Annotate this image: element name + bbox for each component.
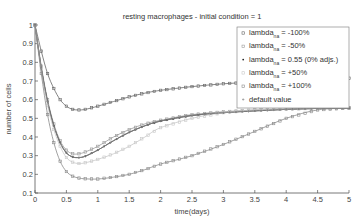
y-axis-label: number of cells bbox=[4, 83, 13, 134]
legend: lambdana = -100%lambdana = -50%lambdana … bbox=[237, 27, 349, 108]
legend-label: default value bbox=[249, 95, 292, 104]
x-tick-label: 4.5 bbox=[312, 195, 322, 204]
y-tick-label: 0.7 bbox=[23, 77, 33, 86]
chart: resting macrophages - initial condition … bbox=[0, 0, 362, 221]
y-tick-label: 0.1 bbox=[23, 189, 33, 198]
x-tick-label: 1 bbox=[96, 195, 100, 204]
y-tick-label: 0.6 bbox=[23, 95, 33, 104]
x-tick-label: 5 bbox=[347, 195, 351, 204]
x-tick-label: 1.5 bbox=[124, 195, 134, 204]
y-tick-label: 0.2 bbox=[23, 170, 33, 179]
x-tick-label: 3.5 bbox=[250, 195, 260, 204]
y-tick-label: 0.5 bbox=[23, 114, 33, 123]
x-tick-label: 0.5 bbox=[61, 195, 71, 204]
marker-star bbox=[34, 24, 36, 26]
y-tick-label: 0.8 bbox=[23, 58, 33, 67]
y-tick-label: 0.9 bbox=[23, 39, 33, 48]
x-tick-label: 0 bbox=[33, 195, 37, 204]
marker-star bbox=[84, 155, 86, 157]
x-tick-label: 2 bbox=[159, 195, 163, 204]
y-ticks: 0.10.20.30.40.50.60.70.80.91 bbox=[23, 21, 38, 198]
x-tick-label: 4 bbox=[284, 195, 288, 204]
x-ticks: 00.511.522.533.544.55 bbox=[33, 190, 351, 204]
y-tick-label: 0.3 bbox=[23, 151, 33, 160]
x-tick-label: 3 bbox=[221, 195, 225, 204]
marker-star bbox=[71, 156, 73, 158]
legend-marker-icon bbox=[242, 59, 244, 61]
chart-title: resting macrophages - initial condition … bbox=[123, 12, 262, 21]
y-tick-label: 1 bbox=[29, 21, 33, 30]
x-tick-label: 2.5 bbox=[187, 195, 197, 204]
x-axis-label: time(days) bbox=[174, 207, 210, 216]
legend-item: default value bbox=[242, 95, 292, 104]
marker-star bbox=[78, 156, 80, 158]
y-tick-label: 0.4 bbox=[23, 133, 33, 142]
